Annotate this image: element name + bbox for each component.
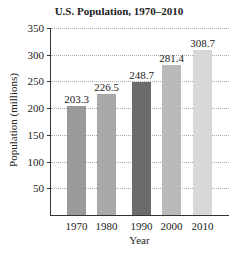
- y-axis-title: Population (millions): [7, 55, 19, 185]
- gridline: [51, 28, 229, 29]
- x-tick-label: 1980: [89, 220, 125, 232]
- y-tick-mark: [47, 81, 51, 82]
- bar-value-label: 281.4: [152, 52, 192, 64]
- y-tick-mark: [47, 28, 51, 29]
- y-tick-mark: [47, 108, 51, 109]
- chart-title: U.S. Population, 1970–2010: [0, 5, 238, 17]
- bar-2000: [162, 65, 181, 215]
- bar-1980: [97, 94, 116, 215]
- x-axis-line: [50, 215, 229, 216]
- y-tick-mark: [47, 135, 51, 136]
- bar-value-label: 203.3: [57, 93, 97, 105]
- bar-1990: [132, 82, 151, 215]
- bar-value-label: 308.7: [183, 37, 223, 49]
- y-tick-mark: [47, 162, 51, 163]
- bar-1970: [67, 106, 86, 215]
- bar-value-label: 226.5: [87, 81, 127, 93]
- x-tick-label: 2010: [185, 220, 221, 232]
- x-axis-title: Year: [50, 234, 229, 246]
- y-tick-label: 350: [4, 22, 44, 34]
- bar-value-label: 248.7: [122, 69, 162, 81]
- y-tick-mark: [47, 188, 51, 189]
- y-tick-mark: [47, 55, 51, 56]
- bar-2010: [193, 50, 212, 215]
